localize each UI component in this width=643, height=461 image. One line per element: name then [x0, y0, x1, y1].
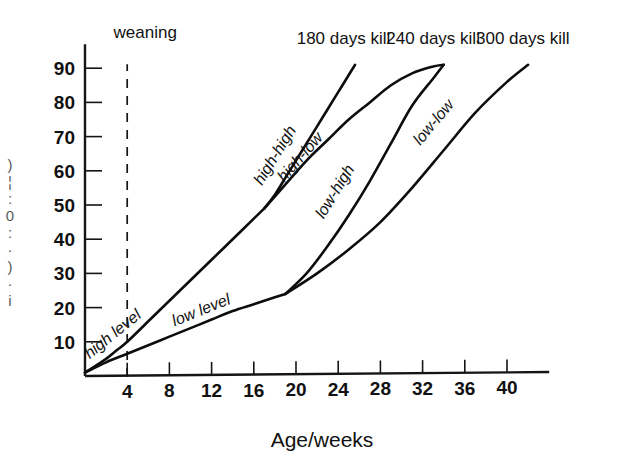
edge-fragment-4: : — [8, 224, 12, 241]
kill-labels: 180 days kill240 days kill300 days kill — [297, 29, 570, 48]
x-tick-label-40: 40 — [496, 377, 517, 398]
y-tick-label-10: 10 — [54, 332, 75, 353]
x-tick-label-36: 36 — [454, 378, 475, 399]
y-tick-label-70: 70 — [54, 127, 75, 148]
edge-fragment-0: ) — [8, 156, 13, 173]
x-axis-title: Age/weeks — [271, 428, 374, 451]
x-axis-ticks: 481216202428323640 — [122, 359, 518, 401]
growth-curve-chart: )¦:0:·)·i 102030405060708090 48121620242… — [0, 0, 643, 461]
y-tick-label-30: 30 — [54, 263, 75, 284]
edge-fragment-6: ) — [8, 258, 13, 275]
edge-fragment-8: i — [8, 292, 11, 309]
edge-fragment-7: · — [8, 275, 13, 292]
edge-fragment-1: ¦ — [8, 173, 12, 190]
cropped-ylabel-fragments: )¦:0:·)·i — [6, 156, 14, 309]
chart-container: )¦:0:·)·i 102030405060708090 48121620242… — [0, 0, 643, 461]
x-axis-line — [85, 372, 549, 376]
weaning-label: weaning — [113, 23, 177, 42]
x-tick-label-32: 32 — [412, 378, 433, 399]
x-tick-label-28: 28 — [370, 378, 391, 399]
y-tick-label-40: 40 — [54, 229, 75, 250]
curve-series — [85, 65, 528, 373]
curve-high-level — [85, 208, 264, 372]
edge-fragment-5: · — [8, 241, 13, 258]
x-tick-label-12: 12 — [201, 380, 222, 401]
kill-label-0: 180 days kill — [297, 29, 391, 48]
kill-label-1: 240 days kill — [386, 29, 480, 48]
x-tick-label-8: 8 — [164, 380, 175, 401]
x-tick-label-16: 16 — [243, 380, 264, 401]
curve-labels: high levellow levelhigh-highhigh-lowlow-… — [81, 95, 458, 362]
edge-fragment-2: : — [8, 190, 12, 207]
y-tick-label-60: 60 — [54, 161, 75, 182]
y-axis-ticks: 102030405060708090 — [54, 58, 102, 353]
edge-fragment-3: 0 — [6, 207, 14, 224]
x-tick-label-20: 20 — [285, 379, 306, 400]
y-tick-label-90: 90 — [54, 58, 75, 79]
curve-low-low — [285, 65, 528, 294]
x-tick-label-24: 24 — [328, 379, 350, 400]
y-tick-label-80: 80 — [54, 92, 75, 113]
kill-label-2: 300 days kill — [476, 29, 570, 48]
y-tick-label-50: 50 — [54, 195, 75, 216]
x-tick-label-4: 4 — [122, 381, 133, 402]
y-tick-label-20: 20 — [54, 298, 75, 319]
